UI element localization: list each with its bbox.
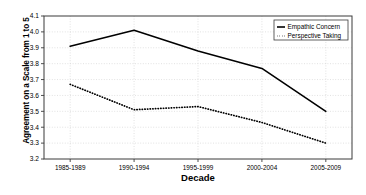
y-tick-label: 3.6	[30, 92, 39, 99]
plot-area: 3.23.33.43.53.63.73.83.94.04.1 1985-1989…	[0, 0, 366, 195]
y-tick-label: 3.8	[30, 60, 39, 67]
y-axis-ticks: 3.23.33.43.53.63.73.83.94.04.1	[30, 12, 44, 162]
x-axis-ticks: 1985-19891990-19941995-19992000-20042005…	[55, 159, 342, 171]
y-tick-label: 4.1	[30, 12, 39, 19]
x-tick-label: 2005-2009	[311, 164, 342, 171]
y-tick-label: 3.2	[30, 155, 39, 162]
x-tick-label: 2000-2004	[247, 164, 278, 171]
legend-label-2: Perspective Taking	[288, 32, 342, 40]
x-tick-label: 1990-1994	[119, 164, 150, 171]
y-tick-label: 3.7	[30, 76, 39, 83]
y-tick-label: 3.9	[30, 44, 39, 51]
y-tick-label: 4.0	[30, 28, 39, 35]
x-tick-label: 1985-1989	[55, 164, 86, 171]
y-tick-label: 3.5	[30, 108, 39, 115]
y-tick-label: 3.4	[30, 124, 39, 131]
chart-legend: Empathic ConcernPerspective Taking	[274, 20, 348, 40]
chart-container: Agreement on a Scale from 1 to 5 Decade …	[0, 0, 366, 195]
y-tick-label: 3.3	[30, 139, 39, 146]
x-tick-label: 1995-1999	[183, 164, 214, 171]
legend-label-1: Empathic Concern	[288, 23, 341, 31]
